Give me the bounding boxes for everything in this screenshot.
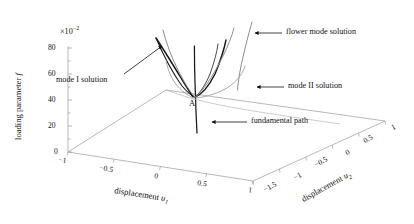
axis-f-tick-80: 80	[48, 44, 56, 52]
bifurcation-point-a-label: A	[189, 100, 195, 108]
axis-f-title: loading parameter f	[14, 73, 23, 140]
annotation-fundamental-path: fundamental path	[251, 117, 308, 125]
curve-flower-right	[196, 28, 235, 97]
axis-f-tick-0: 0	[54, 148, 58, 156]
annotation-mode-ii-solution: mode II solution	[288, 82, 342, 90]
axis-u1-tick--1: −1	[58, 156, 67, 165]
axis-f-tick-40: 40	[48, 96, 56, 104]
base-edge-back-left	[68, 90, 166, 152]
curve-mode-ii-inner	[195, 44, 218, 97]
curve-mode-i	[156, 38, 193, 97]
axis-u1-ticks	[67, 152, 253, 185]
axis-u1-tick-0.5: 0.5	[197, 179, 208, 188]
axis-u2-ticks	[253, 121, 386, 185]
figure-container: ×10−2 loading parameter f 0 20 40 60 80 …	[0, 0, 414, 224]
axis-f-multiplier: ×10−2	[60, 26, 79, 36]
axis-f-tick-60: 60	[48, 70, 56, 78]
axis-f-tick-20: 20	[48, 122, 56, 130]
axis-u2-front	[253, 121, 385, 181]
axis-u1-tick--0.5: −0.5	[99, 164, 114, 174]
annotation-flower-mode-solution: flower mode solution	[286, 28, 356, 36]
curve-flower-far-right	[238, 22, 253, 90]
annotation-mode-i-solution: mode I solution	[56, 76, 107, 84]
axis-f-ticks	[68, 48, 72, 152]
leader-mode-i	[124, 46, 162, 74]
curve-secondary-arc-right	[196, 66, 245, 98]
curve-mode-ii	[195, 40, 226, 97]
figure-caption	[4, 214, 410, 224]
axes-wireframe	[68, 46, 385, 181]
curve-fundamental-path	[194, 46, 197, 133]
